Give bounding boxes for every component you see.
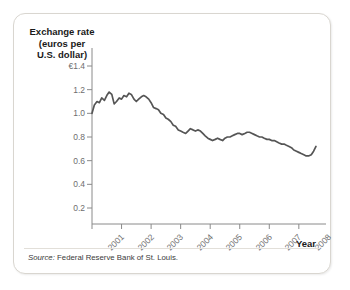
- data-line-euros-per-dollar: [92, 92, 316, 156]
- source-label: Source:: [28, 253, 55, 262]
- source-text: Federal Reserve Bank of St. Louis.: [55, 253, 178, 262]
- y-tick-label: 0.6: [39, 156, 85, 166]
- y-tick-label: 0.4: [39, 179, 85, 189]
- source-note: Source: Federal Reserve Bank of St. Loui…: [28, 253, 178, 262]
- y-tick-label: 0.2: [39, 203, 85, 213]
- y-tick-label: €1.4: [39, 61, 85, 71]
- footer-divider: [24, 248, 320, 249]
- y-axis-title: Exchange rate (euros per U.S. dollar): [22, 26, 102, 61]
- y-tick-label: 0.8: [39, 132, 85, 142]
- y-tick-label: 1.0: [39, 108, 85, 118]
- figure-container: €1.41.21.00.80.60.40.2200120022003200420…: [13, 13, 331, 274]
- y-tick-label: 1.2: [39, 85, 85, 95]
